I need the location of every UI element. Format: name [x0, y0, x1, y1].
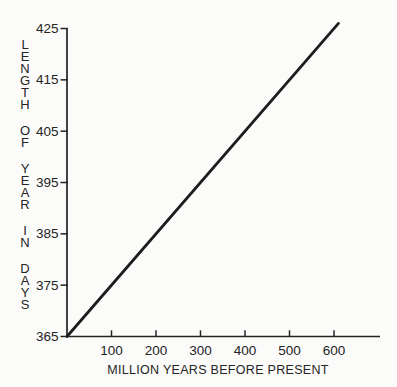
y-axis-title-word: IN: [20, 225, 29, 249]
y-axis-title-letter: H: [20, 99, 29, 111]
y-tick-label: 365: [36, 329, 59, 344]
x-tick-label: 200: [145, 343, 168, 358]
y-tick-label: 395: [36, 175, 59, 190]
y-axis-title-letter: R: [20, 199, 29, 211]
x-tick-label: 500: [278, 343, 301, 358]
data-line: [67, 23, 338, 336]
plot-area: 365375385395405415425100200300400500600: [0, 0, 397, 387]
y-axis-title: LENGTHOFYEARINDAYS: [13, 39, 37, 311]
y-axis-title-letter: S: [21, 299, 30, 311]
y-axis-title-letter: F: [21, 137, 29, 149]
y-tick-label: 385: [36, 226, 59, 241]
y-tick-label: 415: [36, 72, 59, 87]
x-tick-label: 100: [100, 343, 123, 358]
y-axis-title-word: OF: [20, 125, 30, 149]
y-axis-title-word: LENGTH: [20, 39, 30, 111]
x-tick-label: 600: [323, 343, 346, 358]
y-tick-label: 425: [36, 21, 59, 36]
chart-figure: 365375385395405415425100200300400500600 …: [0, 0, 397, 387]
x-tick-label: 300: [189, 343, 212, 358]
y-axis-title-word: YEAR: [20, 163, 29, 211]
x-axis-title: MILLION YEARS BEFORE PRESENT: [68, 363, 368, 377]
y-tick-label: 405: [36, 124, 59, 139]
y-tick-label: 375: [36, 278, 59, 293]
y-axis-title-word: DAYS: [20, 263, 29, 311]
y-axis-title-letter: N: [20, 237, 29, 249]
x-tick-label: 400: [234, 343, 257, 358]
axis-lines: [67, 29, 380, 337]
